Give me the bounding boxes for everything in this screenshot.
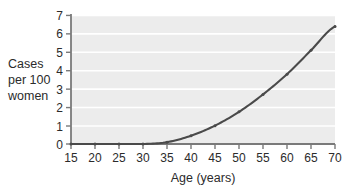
x-tick-label-70: 70: [328, 151, 342, 165]
y-tick-label-4: 4: [56, 64, 63, 78]
data-point-marker: [214, 124, 217, 127]
data-point-marker: [262, 93, 265, 96]
data-point-marker: [94, 143, 97, 146]
x-tick-label-55: 55: [256, 151, 270, 165]
data-point-marker: [334, 25, 337, 28]
data-point-marker: [70, 143, 73, 146]
data-point-marker: [190, 134, 193, 137]
x-tick-label-15: 15: [64, 151, 78, 165]
y-tick-label-3: 3: [56, 83, 63, 97]
data-point-marker: [286, 73, 289, 76]
x-axis-title: Age (years): [171, 171, 236, 185]
x-tick-label-30: 30: [136, 151, 150, 165]
x-tick-label-20: 20: [88, 151, 102, 165]
x-tick-label-65: 65: [304, 151, 318, 165]
y-tick-label-2: 2: [56, 101, 63, 115]
line-chart: 7 6 5 4 3 2 1 0 15 20 25: [0, 0, 347, 191]
y-tick-label-0: 0: [56, 138, 63, 152]
y-tick-label-6: 6: [56, 27, 63, 41]
x-tick-label-60: 60: [280, 151, 294, 165]
data-point-marker: [118, 143, 121, 146]
x-tick-label-40: 40: [184, 151, 198, 165]
data-point-marker: [142, 143, 145, 146]
y-axis-title-line-3: women: [7, 89, 48, 103]
data-point-marker: [238, 110, 241, 113]
x-tick-label-45: 45: [208, 151, 222, 165]
y-tick-label-7: 7: [56, 9, 63, 23]
chart-screenshot: 7 6 5 4 3 2 1 0 15 20 25: [0, 0, 347, 191]
x-tick-label-35: 35: [160, 151, 174, 165]
y-axis-title-line-2: per 100: [8, 73, 50, 87]
x-tick-label-25: 25: [112, 151, 126, 165]
data-point-marker: [166, 141, 169, 144]
x-tick-label-50: 50: [232, 151, 246, 165]
data-point-marker: [310, 49, 313, 52]
y-tick-label-1: 1: [56, 120, 63, 134]
y-tick-label-5: 5: [56, 46, 63, 60]
y-axis-title-line-1: Cases: [8, 57, 43, 71]
